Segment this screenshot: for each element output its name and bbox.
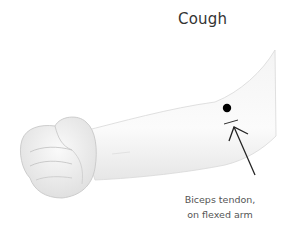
fist-shape [20, 117, 96, 198]
point-caption: Biceps tendon, on flexed arm [170, 192, 270, 222]
acupoint-marker [223, 104, 231, 112]
caption-line-1: Biceps tendon, [170, 192, 270, 207]
caption-line-2: on flexed arm [170, 207, 270, 222]
forearm-shape [80, 50, 276, 180]
